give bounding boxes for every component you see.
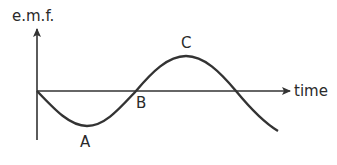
emf-curve [37,56,278,131]
point-c-label: C [181,34,191,52]
point-b-label: B [136,94,146,112]
x-axis-label: time [294,82,328,100]
point-a-label: A [80,133,91,151]
emf-time-graph: e.m.f. time A B C [0,0,337,165]
y-axis-label: e.m.f. [12,7,54,25]
